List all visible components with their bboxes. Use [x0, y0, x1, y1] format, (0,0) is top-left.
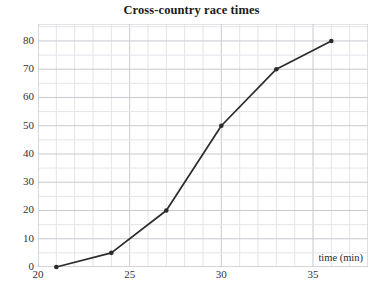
- y-tick-label: 80: [4, 35, 34, 46]
- y-tick-label: 70: [4, 63, 34, 74]
- data-point-marker: [329, 39, 334, 44]
- series-polyline: [56, 41, 331, 267]
- data-point-marker: [274, 67, 279, 72]
- chart-title: Cross-country race times: [0, 3, 383, 18]
- y-tick-label: 10: [4, 233, 34, 244]
- data-series-line: [38, 24, 368, 267]
- x-tick-label: 20: [20, 269, 56, 280]
- y-tick-label: 40: [4, 148, 34, 159]
- x-tick-label: 25: [112, 269, 148, 280]
- data-point-marker: [164, 208, 169, 213]
- x-axis-tick-labels: 20253035: [38, 269, 378, 287]
- data-point-marker: [219, 123, 224, 128]
- y-tick-label: 60: [4, 91, 34, 102]
- y-axis-tick-labels: 01020304050607080: [0, 24, 34, 267]
- y-tick-label: 20: [4, 204, 34, 215]
- y-tick-label: 30: [4, 176, 34, 187]
- x-axis-title: time (min): [318, 252, 363, 263]
- x-tick-label: 35: [295, 269, 331, 280]
- y-tick-label: 50: [4, 120, 34, 131]
- plot-area: time (min): [38, 24, 368, 267]
- chart-container: Cross-country race times 010203040506070…: [0, 0, 383, 298]
- data-point-marker: [109, 251, 114, 256]
- x-tick-label: 30: [203, 269, 239, 280]
